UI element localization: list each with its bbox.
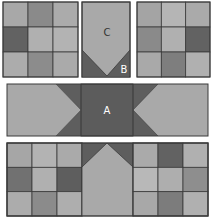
ninepatch-cell bbox=[186, 2, 210, 27]
ninepatch-cell bbox=[133, 192, 158, 216]
ninepatch-cell bbox=[7, 192, 32, 216]
ninepatch-cell bbox=[3, 52, 28, 77]
ninepatch-cell bbox=[158, 143, 183, 167]
top-left-ninepatch bbox=[3, 2, 78, 77]
label-a: A bbox=[104, 105, 111, 116]
quilt-diagram: C B A bbox=[0, 0, 212, 217]
piece-c-unit: C B bbox=[82, 2, 130, 77]
ninepatch-cell bbox=[57, 192, 82, 216]
bottom-right-ninepatch bbox=[133, 143, 208, 216]
ninepatch-cell bbox=[183, 192, 208, 216]
ninepatch-cell bbox=[28, 52, 53, 77]
ninepatch-cell bbox=[32, 143, 57, 167]
ninepatch-cell bbox=[161, 52, 185, 77]
ninepatch-cell bbox=[53, 52, 78, 77]
ninepatch-cell bbox=[137, 27, 161, 52]
ninepatch-cell bbox=[137, 52, 161, 77]
label-c: C bbox=[104, 27, 111, 38]
ninepatch-cell bbox=[28, 2, 53, 27]
ninepatch-cell bbox=[53, 27, 78, 52]
ninepatch-cell bbox=[32, 167, 57, 191]
ninepatch-cell bbox=[161, 27, 185, 52]
ninepatch-cell bbox=[3, 27, 28, 52]
ninepatch-cell bbox=[183, 143, 208, 167]
middle-bar-unit: A bbox=[7, 84, 208, 136]
ninepatch-cell bbox=[186, 27, 210, 52]
ninepatch-cell bbox=[158, 167, 183, 191]
label-b: B bbox=[121, 64, 128, 75]
ninepatch-cell bbox=[57, 167, 82, 191]
ninepatch-cell bbox=[183, 167, 208, 191]
ninepatch-cell bbox=[7, 167, 32, 191]
ninepatch-cell bbox=[133, 167, 158, 191]
ninepatch-cell bbox=[28, 27, 53, 52]
ninepatch-cell bbox=[3, 2, 28, 27]
ninepatch-cell bbox=[53, 2, 78, 27]
ninepatch-cell bbox=[186, 52, 210, 77]
ninepatch-cell bbox=[7, 143, 32, 167]
ninepatch-cell bbox=[133, 143, 158, 167]
ninepatch-cell bbox=[161, 2, 185, 27]
ninepatch-cell bbox=[32, 192, 57, 216]
bottom-row-unit bbox=[7, 143, 208, 216]
ninepatch-cell bbox=[137, 2, 161, 27]
ninepatch-cell bbox=[158, 192, 183, 216]
ninepatch-cell bbox=[57, 143, 82, 167]
bottom-left-ninepatch bbox=[7, 143, 82, 216]
top-right-ninepatch bbox=[137, 2, 210, 77]
